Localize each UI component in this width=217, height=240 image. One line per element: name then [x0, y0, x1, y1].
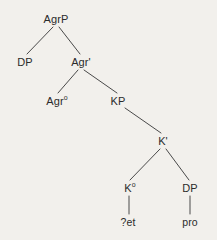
- node-k-bar: K': [158, 135, 168, 147]
- node-kp-label: KP: [111, 95, 126, 107]
- branch-k_bar-to-k_head: [130, 149, 160, 180]
- branch-agrp-to-dp_spec: [27, 27, 53, 54]
- node-kp: KP: [111, 95, 126, 107]
- node-agr-bar-label: Agr': [71, 56, 91, 68]
- syntax-tree-figure: AgrP DP Agr' Agro KP K' Ko DP ?et pro: [0, 0, 217, 240]
- node-k-bar-label: K': [158, 135, 168, 147]
- terminal-pro: pro: [182, 216, 197, 228]
- node-agr-head: Agro: [46, 95, 67, 107]
- tree-branch-lines: [0, 0, 217, 240]
- node-k-head: Ko: [124, 182, 135, 194]
- node-agr-bar: Agr': [71, 56, 91, 68]
- node-agrp: AgrP: [44, 13, 69, 25]
- node-dp-complement: DP: [182, 182, 197, 194]
- node-dp-complement-label: DP: [182, 182, 197, 194]
- node-agr-head-superscript: o: [64, 94, 68, 101]
- terminal-pro-label: pro: [182, 216, 197, 228]
- node-agr-head-label: Agr: [46, 95, 63, 107]
- branch-kp-to-k_bar: [125, 108, 161, 133]
- node-k-head-superscript: o: [132, 181, 136, 188]
- node-dp-specifier: DP: [17, 56, 32, 68]
- branch-agrp-to-agr_bar: [59, 27, 80, 54]
- node-dp-specifier-label: DP: [17, 56, 32, 68]
- node-agrp-label: AgrP: [44, 13, 69, 25]
- branch-agr_bar-to-agr_head: [58, 70, 78, 93]
- terminal-et-label: ?et: [121, 216, 136, 228]
- branch-k_bar-to-dp_comp: [166, 149, 189, 180]
- branch-agr_bar-to-kp: [84, 70, 117, 93]
- terminal-et: ?et: [121, 216, 136, 228]
